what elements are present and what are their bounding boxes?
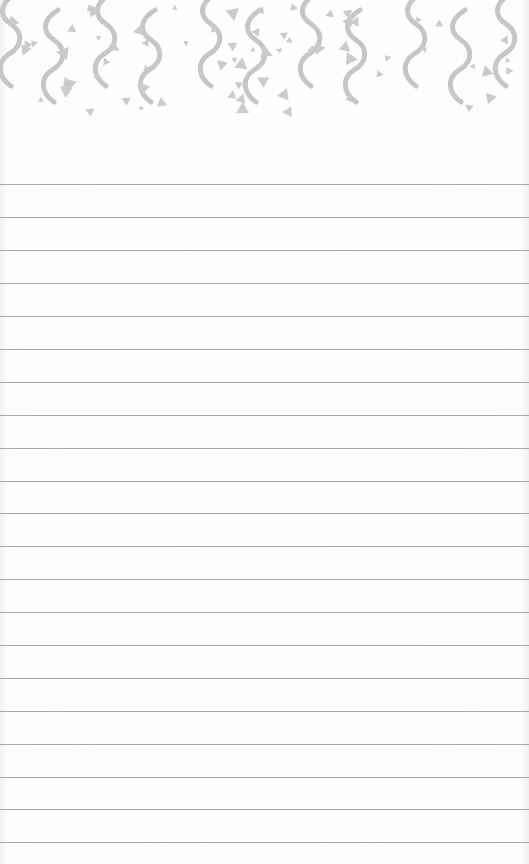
ruled-line bbox=[0, 349, 529, 350]
ruled-line bbox=[0, 217, 529, 218]
ruled-line bbox=[0, 283, 529, 284]
ruled-line bbox=[0, 678, 529, 679]
ruled-line bbox=[0, 546, 529, 547]
ruled-line bbox=[0, 250, 529, 251]
ruled-line bbox=[0, 481, 529, 482]
notepad-page bbox=[0, 0, 529, 864]
ruled-line bbox=[0, 513, 529, 514]
ruled-line bbox=[0, 777, 529, 778]
ruled-line bbox=[0, 415, 529, 416]
ruled-line bbox=[0, 842, 529, 843]
ruled-line bbox=[0, 744, 529, 745]
ruled-line bbox=[0, 316, 529, 317]
ruled-line bbox=[0, 184, 529, 185]
ruled-line bbox=[0, 612, 529, 613]
ruled-line bbox=[0, 809, 529, 810]
ruled-line bbox=[0, 645, 529, 646]
ruled-line bbox=[0, 711, 529, 712]
ruled-line bbox=[0, 579, 529, 580]
ruled-lines bbox=[0, 0, 529, 864]
ruled-line bbox=[0, 448, 529, 449]
ruled-line bbox=[0, 382, 529, 383]
